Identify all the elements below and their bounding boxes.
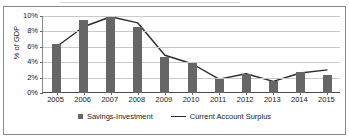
plot-area (42, 16, 340, 93)
bar-savings-investment (52, 44, 61, 93)
y-axis-tick-mark (40, 93, 43, 94)
y-axis-tick-labels: 10%8%6%4%2%0% (12, 11, 38, 93)
legend-label-current-account-surplus: Current Account Surplus (190, 112, 271, 121)
bar-savings-investment (215, 79, 224, 93)
x-axis-tick-label: 2005 (41, 95, 71, 104)
y-axis-tick-mark (40, 16, 43, 17)
x-axis-tick-label: 2010 (176, 95, 206, 104)
x-axis-tick-label: 2011 (203, 95, 233, 104)
y-axis-tick-label: 4% (12, 58, 38, 66)
x-axis-tick-label: 2009 (149, 95, 179, 104)
x-axis-tick-label: 2007 (95, 95, 125, 104)
x-axis-tick-label: 2006 (68, 95, 98, 104)
legend-item-savings-investment: Savings-Investment (78, 112, 153, 121)
x-axis-tick-label: 2012 (230, 95, 260, 104)
title-cutoff-rule (60, 2, 240, 3)
y-axis-tick-mark (40, 78, 43, 79)
bar-savings-investment (296, 72, 305, 93)
x-axis-tick-label: 2008 (122, 95, 152, 104)
bar-savings-investment (133, 27, 142, 93)
bar-savings-investment (323, 75, 332, 93)
x-axis-tick-label: 2014 (284, 95, 314, 104)
bar-savings-investment (106, 17, 115, 93)
legend-item-current-account-surplus: Current Account Surplus (171, 112, 271, 121)
y-axis-tick-mark (40, 31, 43, 32)
x-axis-tick-label: 2015 (311, 95, 341, 104)
bar-savings-investment (160, 57, 169, 93)
bar-savings-investment (79, 20, 88, 93)
y-axis-tick-label: 6% (12, 43, 38, 51)
y-axis-tick-label: 8% (12, 27, 38, 35)
x-axis-tick-labels: 2005200620072008200920102011201220132014… (42, 95, 340, 107)
chart-legend: Savings-Investment Current Account Surpl… (0, 112, 349, 121)
chart-figure: % of GDP 10%8%6%4%2%0% 20052006200720082… (0, 0, 349, 138)
legend-label-savings-investment: Savings-Investment (87, 112, 153, 121)
y-axis-tick-mark (40, 47, 43, 48)
square-marker-icon (78, 114, 83, 119)
bar-savings-investment (188, 63, 197, 93)
line-marker-icon (171, 116, 186, 117)
y-axis-tick-label: 0% (12, 89, 38, 97)
gridline (43, 16, 340, 17)
y-axis-tick-mark (40, 62, 43, 63)
x-axis-tick-label: 2013 (257, 95, 287, 104)
y-axis-tick-label: 2% (12, 74, 38, 82)
bar-savings-investment (242, 74, 251, 93)
y-axis-tick-label: 10% (12, 12, 38, 20)
